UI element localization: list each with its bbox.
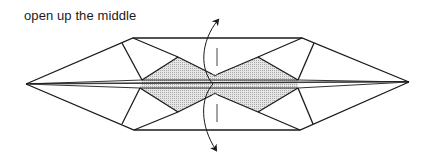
shaded-inner-layer xyxy=(140,57,298,112)
origami-diagram xyxy=(0,0,436,164)
